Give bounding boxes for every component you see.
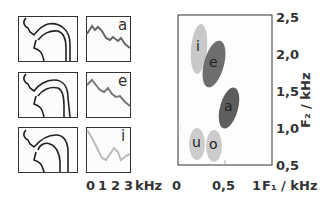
- x-tick-1: 1: [252, 178, 261, 193]
- y-tick-1-5: 1,5: [276, 84, 299, 99]
- vocal-tract-contours: [24, 18, 70, 172]
- region-label-i: i: [196, 38, 200, 54]
- x-tick-0: 0: [172, 178, 181, 193]
- x-axis-label: F₁ / kHz: [262, 178, 317, 193]
- y-tick-1-0: 1,0: [276, 121, 299, 136]
- region-label-e: e: [209, 54, 218, 70]
- spectrum-tick-3: 3: [124, 178, 133, 193]
- spectrum-tick-1: 1: [98, 178, 107, 193]
- y-tick-2-5: 2,5: [276, 10, 299, 25]
- vowel-label-i: i: [121, 127, 125, 145]
- region-label-u: u: [192, 134, 201, 150]
- x-tick-0-5: 0,5: [212, 178, 235, 193]
- y-tick-2-0: 2,0: [276, 47, 299, 62]
- spectrum-unit: kHz: [135, 178, 162, 193]
- vowel-label-e: e: [118, 72, 127, 90]
- y-axis-label: F₂ / kHz: [298, 73, 313, 128]
- vowel-label-a: a: [118, 16, 127, 34]
- region-label-a: a: [224, 98, 233, 114]
- drawing-layer: [0, 0, 323, 202]
- y-tick-0-5: 0,5: [276, 158, 299, 173]
- spectrum-tick-0: 0: [86, 178, 95, 193]
- region-label-o: o: [209, 136, 218, 152]
- spectrum-tick-2: 2: [111, 178, 120, 193]
